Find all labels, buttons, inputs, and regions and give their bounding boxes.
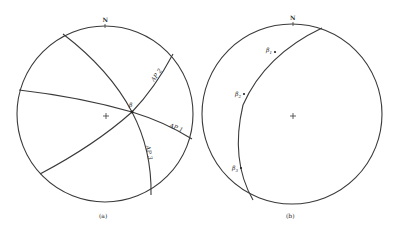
caption-b: (b) <box>286 212 295 219</box>
north-label-b: N <box>290 14 296 21</box>
beta-label: β <box>128 101 133 109</box>
beta3-point <box>240 167 242 169</box>
north-label-a: N <box>103 16 109 23</box>
stereonet-b: N β1 β2 β3 (b) <box>202 14 382 219</box>
beta1-label: β1 <box>265 46 272 55</box>
great-circle-ap3 <box>63 34 151 195</box>
stereonet-figure: N β AP 1 AP 2 AP 3 (a) N β1 β2 <box>0 0 396 229</box>
primitive-circle-a <box>17 26 193 202</box>
beta2-label: β2 <box>234 90 241 99</box>
great-circle-b <box>238 28 322 200</box>
beta3-label: β3 <box>231 164 238 173</box>
stereonet-a: N β AP 1 AP 2 AP 3 (a) <box>17 16 193 219</box>
great-circle-ap1 <box>19 90 192 139</box>
ap1-label: AP 1 <box>168 121 185 133</box>
ap3-label: AP 3 <box>145 144 155 160</box>
beta-point <box>131 111 134 114</box>
beta2-point <box>243 93 245 95</box>
beta1-point <box>274 51 276 53</box>
caption-a: (a) <box>99 212 107 219</box>
primitive-circle-b <box>202 24 382 204</box>
